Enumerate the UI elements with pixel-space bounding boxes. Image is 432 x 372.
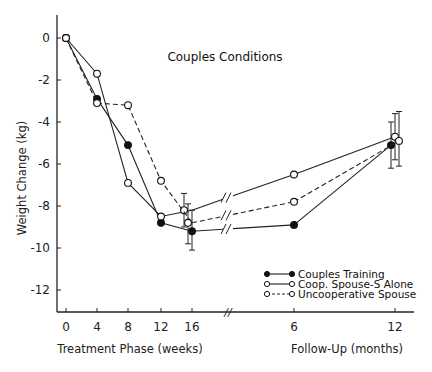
- y-axis-title: Weight Change (kg): [15, 121, 29, 235]
- y-tick-label: -12: [30, 283, 50, 297]
- y-tick-label: -8: [38, 199, 50, 213]
- legend-marker-icon: [289, 271, 294, 276]
- series-couples-training: [63, 35, 395, 251]
- data-point: [189, 228, 196, 235]
- x-tick-label: 0: [62, 320, 70, 334]
- legend-label: Uncooperative Spouse: [298, 288, 416, 300]
- y-tick-label: -4: [38, 115, 50, 129]
- legend-marker-icon: [264, 281, 269, 286]
- data-point: [396, 138, 403, 145]
- x-tick-label: 8: [124, 320, 132, 334]
- series-uncooperative-spouse: [63, 35, 403, 244]
- data-point: [94, 100, 101, 107]
- y-tick-label: -6: [38, 157, 50, 171]
- y-tick-label: -10: [30, 241, 50, 255]
- data-point: [63, 35, 70, 42]
- chart-title: Couples Conditions: [167, 50, 282, 64]
- legend: Couples TrainingCoop. Spouse-S AloneUnco…: [264, 268, 416, 300]
- line-chart: 0-2-4-6-8-10-120481216612// Couples Cond…: [0, 0, 432, 372]
- data-point: [125, 142, 132, 149]
- data-point: [158, 213, 165, 220]
- series-group: [63, 35, 403, 251]
- x-axis-title-treatment: Treatment Phase (weeks): [56, 342, 202, 356]
- data-point: [291, 198, 298, 205]
- y-tick-label: 0: [42, 31, 50, 45]
- legend-marker-icon: [264, 291, 269, 296]
- data-point: [185, 219, 192, 226]
- data-point: [158, 177, 165, 184]
- data-point: [94, 70, 101, 77]
- x-axis-title-followup: Follow-Up (months): [291, 342, 403, 356]
- axis-break-icon: //: [223, 306, 233, 319]
- x-tick-label: 4: [93, 320, 101, 334]
- data-point: [291, 171, 298, 178]
- x-tick-label: 12: [153, 320, 168, 334]
- data-point: [125, 180, 132, 187]
- legend-marker-icon: [289, 291, 294, 296]
- x-tick-label: 16: [184, 320, 199, 334]
- data-point: [125, 102, 132, 109]
- data-point: [291, 222, 298, 229]
- legend-marker-icon: [289, 281, 294, 286]
- x-tick-label: 6: [290, 320, 298, 334]
- y-tick-label: -2: [38, 73, 50, 87]
- legend-marker-icon: [264, 271, 269, 276]
- x-tick-label: 12: [387, 320, 402, 334]
